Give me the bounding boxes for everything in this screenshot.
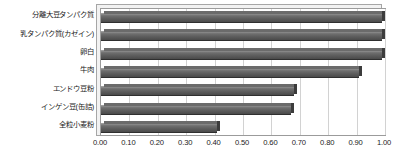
bar-row <box>101 64 359 82</box>
plot-shell <box>100 4 386 136</box>
category-label: インゲン豆(缶詰) <box>0 97 97 115</box>
x-tick-label: 0.20 <box>150 138 164 147</box>
bar-row <box>101 46 382 64</box>
bar-row <box>101 82 294 100</box>
x-tick-label: 0.90 <box>349 138 363 147</box>
x-tick-label: 0.40 <box>207 138 221 147</box>
category-label: 乳タンパク質(カゼイン) <box>0 24 97 42</box>
category-label: 全粒小麦粉 <box>0 116 97 134</box>
gridline <box>385 9 386 135</box>
bar-row <box>101 119 217 137</box>
x-tick-label: 0.60 <box>263 138 277 147</box>
x-tick-label: 1.00 <box>377 138 391 147</box>
bar-chart: 分離大豆タンパク質乳タンパク質(カゼイン)卵白牛肉エンドウ豆粉インゲン豆(缶詰)… <box>0 0 395 164</box>
bar-row <box>101 100 291 118</box>
value-axis: 0.000.100.200.300.400.500.600.700.800.90… <box>100 138 386 152</box>
x-tick-label: 0.10 <box>121 138 135 147</box>
bars-layer <box>101 9 385 135</box>
category-label: 牛肉 <box>0 61 97 79</box>
bar <box>101 68 359 78</box>
bar <box>101 50 382 60</box>
x-tick-label: 0.80 <box>320 138 334 147</box>
x-tick-label: 0.30 <box>178 138 192 147</box>
category-label: エンドウ豆粉 <box>0 79 97 97</box>
x-tick-label: 0.50 <box>235 138 249 147</box>
category-label: 分離大豆タンパク質 <box>0 6 97 24</box>
bar <box>101 123 217 133</box>
bar <box>101 31 382 41</box>
category-axis: 分離大豆タンパク質乳タンパク質(カゼイン)卵白牛肉エンドウ豆粉インゲン豆(缶詰)… <box>0 6 97 134</box>
bar-row <box>101 9 382 27</box>
category-label: 卵白 <box>0 43 97 61</box>
bar-row <box>101 27 382 45</box>
x-tick-label: 0.00 <box>93 138 107 147</box>
plot-area <box>100 8 386 136</box>
bar <box>101 86 294 96</box>
bar <box>101 13 382 23</box>
x-tick-label: 0.70 <box>292 138 306 147</box>
bar <box>101 105 291 115</box>
